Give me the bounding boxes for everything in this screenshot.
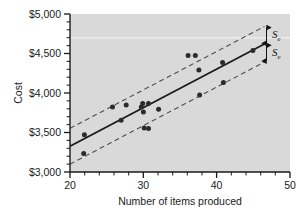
data-point	[193, 53, 198, 58]
data-point	[250, 48, 255, 53]
data-point	[119, 118, 124, 123]
chart-figure: Se Se	[0, 0, 307, 213]
data-point	[140, 101, 145, 106]
data-point	[196, 67, 201, 72]
x-tick-label: 30	[137, 179, 149, 191]
y-tick-label: $4,000	[29, 87, 61, 99]
y-tick-label: $3,000	[29, 166, 61, 178]
y-tick-label: $4,500	[29, 47, 61, 59]
x-tick-label: 20	[64, 179, 76, 191]
data-point	[142, 126, 147, 131]
data-point	[146, 126, 151, 131]
scatter-plot-svg: Se Se	[0, 0, 307, 213]
y-tick-label: $3,500	[29, 126, 61, 138]
data-point	[82, 132, 87, 137]
data-point	[156, 107, 161, 112]
data-point	[81, 151, 86, 156]
data-point	[221, 80, 226, 85]
data-point	[146, 101, 151, 106]
data-point	[186, 53, 191, 58]
data-point	[220, 60, 225, 65]
y-axis-title: Cost	[12, 82, 24, 104]
y-tick-label: $5,000	[29, 8, 61, 20]
data-point	[124, 102, 129, 107]
x-tick-label: 40	[211, 179, 223, 191]
plot-artifact-band	[70, 37, 290, 39]
data-point	[197, 92, 202, 97]
data-point	[110, 104, 115, 109]
x-axis-title: Number of items produced	[118, 195, 242, 207]
data-point	[141, 110, 146, 115]
x-tick-label: 50	[284, 179, 296, 191]
